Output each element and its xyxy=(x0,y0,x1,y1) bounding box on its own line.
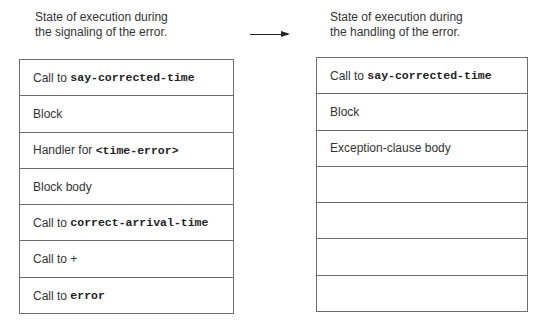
stack-frame: Call to + xyxy=(20,241,233,277)
stack-frame: Handler for <time-error> xyxy=(20,133,233,169)
frame-label: Block xyxy=(330,105,359,119)
frame-code: say-corrected-time xyxy=(70,71,194,84)
frame-label: Call to xyxy=(330,69,364,83)
left-caption: State of execution during the signaling … xyxy=(35,10,168,40)
frame-label: Call to xyxy=(33,71,67,85)
frame-code: correct-arrival-time xyxy=(70,216,208,229)
empty-stack-frame xyxy=(317,167,527,203)
frame-label: Block body xyxy=(33,180,92,194)
frame-code: say-corrected-time xyxy=(367,69,491,82)
frame-code: <time-error> xyxy=(96,144,179,157)
stack-frame: Block xyxy=(20,96,233,132)
stack-frame: Exception-clause body xyxy=(317,131,527,167)
frame-label: Block xyxy=(33,107,62,121)
frame-code: error xyxy=(70,289,105,302)
stack-frame: Call to error xyxy=(20,278,233,314)
frame-label: Call to xyxy=(33,216,67,230)
stack-frame: Call to say-corrected-time xyxy=(317,58,527,94)
arrow-right-icon xyxy=(250,34,288,35)
stack-frame: Call to say-corrected-time xyxy=(20,60,233,96)
left-caption-line-2: the signaling of the error. xyxy=(35,25,168,40)
signaling-stack: Call to say-corrected-time Block Handler… xyxy=(19,59,234,314)
frame-label: Handler for xyxy=(33,143,92,157)
frame-label: Call to + xyxy=(33,252,77,266)
frame-label: Call to xyxy=(33,289,67,303)
stack-frame: Block xyxy=(317,94,527,130)
left-caption-line-1: State of execution during xyxy=(35,10,168,25)
right-caption-line-1: State of execution during xyxy=(330,10,463,25)
stack-frame: Call to correct-arrival-time xyxy=(20,205,233,241)
empty-stack-frame xyxy=(317,276,527,312)
empty-stack-frame xyxy=(317,203,527,239)
handling-stack: Call to say-corrected-time Block Excepti… xyxy=(316,57,528,312)
frame-label: Exception-clause body xyxy=(330,141,451,155)
stack-frame: Block body xyxy=(20,169,233,205)
right-caption-line-2: the handling of the error. xyxy=(330,25,463,40)
empty-stack-frame xyxy=(317,239,527,275)
right-caption: State of execution during the handling o… xyxy=(330,10,463,40)
